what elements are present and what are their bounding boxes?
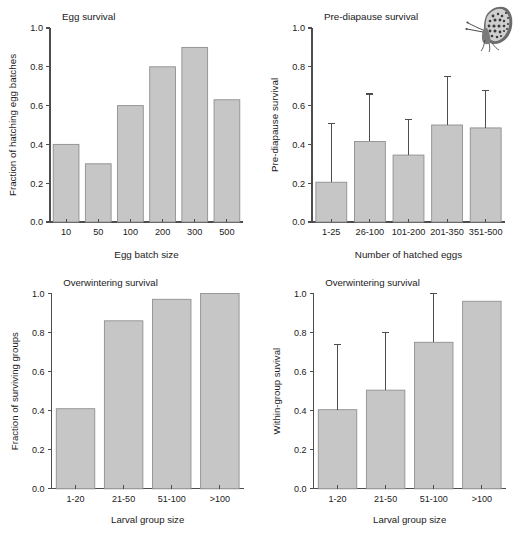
x-tick-label: 51-100 xyxy=(420,494,448,504)
bar xyxy=(201,293,239,488)
bar xyxy=(104,321,142,489)
y-axis-title: Fraction of hatching egg batches xyxy=(7,54,18,196)
multi-panel-figure: 0.00.20.40.60.81.01050100200300500Egg su… xyxy=(0,0,524,538)
y-tick-label: 0.6 xyxy=(30,101,43,111)
panel-overwintering-survival-within-group: 0.00.20.40.60.81.01-2021-5051-100>100Ove… xyxy=(262,264,524,533)
x-axis-title: Number of hatched eggs xyxy=(355,249,462,260)
bar xyxy=(214,100,240,222)
bar xyxy=(153,299,191,489)
y-axis-title: Within-group suvival xyxy=(271,348,282,435)
y-tick-label: 0.8 xyxy=(32,328,45,338)
x-tick-label: 50 xyxy=(93,227,103,237)
y-tick-label: 0.2 xyxy=(294,445,307,455)
y-tick-label: 0.0 xyxy=(292,217,305,227)
panel-title: Overwintering survival xyxy=(325,277,420,288)
bar xyxy=(415,342,453,489)
y-tick-label: 0.0 xyxy=(30,217,43,227)
bar xyxy=(354,141,385,222)
plot-area-pre-diapause-survival: 0.00.20.40.60.81.01-2526-100101-200201-3… xyxy=(262,0,524,269)
y-tick-label: 0.8 xyxy=(292,62,305,72)
x-tick-label: 51-100 xyxy=(158,494,186,504)
x-tick-label: 1-25 xyxy=(322,227,340,237)
x-tick-label: 1-20 xyxy=(329,494,347,504)
panel-pre-diapause-survival: 0.00.20.40.60.81.01-2526-100101-200201-3… xyxy=(262,0,524,269)
x-tick-label: 201-350 xyxy=(430,227,464,237)
panel-title: Pre-diapause survival xyxy=(324,11,418,22)
bar xyxy=(366,390,404,489)
y-tick-label: 0.0 xyxy=(32,484,45,494)
bar xyxy=(85,164,111,222)
y-axis-title: Pre-diapause survival xyxy=(269,78,280,172)
x-axis-title: Larval group size xyxy=(111,514,184,525)
y-tick-label: 0.4 xyxy=(32,406,45,416)
panel-title: Overwintering survival xyxy=(63,277,158,288)
x-tick-label: 300 xyxy=(187,227,202,237)
x-tick-label: 26-100 xyxy=(356,227,385,237)
bar xyxy=(463,301,501,489)
x-axis-title: Egg batch size xyxy=(114,249,179,260)
y-tick-label: 1.0 xyxy=(30,23,43,33)
plot-area-overwintering-groups: 0.00.20.40.60.81.01-2021-5051-100>100Ove… xyxy=(0,264,262,533)
panel-title: Egg survival xyxy=(62,11,115,22)
y-tick-label: 1.0 xyxy=(32,289,45,299)
bar xyxy=(393,155,424,222)
x-tick-label: 1-20 xyxy=(67,494,85,504)
chart-pre-diapause-survival: 0.00.20.40.60.81.01-2526-100101-200201-3… xyxy=(262,0,524,269)
x-tick-label: 100 xyxy=(123,227,138,237)
y-tick-label: 0.0 xyxy=(294,484,307,494)
y-tick-label: 0.2 xyxy=(292,179,305,189)
y-tick-label: 0.8 xyxy=(294,328,307,338)
bar xyxy=(150,67,176,222)
x-tick-label: 10 xyxy=(61,227,71,237)
x-tick-label: 200 xyxy=(155,227,170,237)
bar xyxy=(53,144,79,222)
y-tick-label: 0.6 xyxy=(292,101,305,111)
plot-area-overwintering-within-group: 0.00.20.40.60.81.01-2021-5051-100>100Ove… xyxy=(262,264,524,533)
y-axis-title: Fraction of surviving groups xyxy=(9,332,20,450)
x-tick-label: >100 xyxy=(472,494,492,504)
panel-egg-survival: 0.00.20.40.60.81.01050100200300500Egg su… xyxy=(0,0,262,269)
x-tick-label: 21-50 xyxy=(374,494,397,504)
bar xyxy=(470,128,501,222)
x-tick-label: >100 xyxy=(210,494,230,504)
y-tick-label: 0.8 xyxy=(30,62,43,72)
x-tick-label: 101-200 xyxy=(392,227,426,237)
bar xyxy=(118,106,144,222)
chart-overwintering-survival-within-group: 0.00.20.40.60.81.01-2021-5051-100>100Ove… xyxy=(262,264,524,533)
y-tick-label: 0.2 xyxy=(32,445,45,455)
x-tick-label: 21-50 xyxy=(112,494,135,504)
y-tick-label: 0.2 xyxy=(30,179,43,189)
chart-overwintering-survival-groups: 0.00.20.40.60.81.01-2021-5051-100>100Ove… xyxy=(0,264,262,533)
x-tick-label: 351-500 xyxy=(469,227,503,237)
chart-egg-survival: 0.00.20.40.60.81.01050100200300500Egg su… xyxy=(0,0,262,269)
bar xyxy=(316,182,347,222)
x-tick-label: 500 xyxy=(219,227,234,237)
y-tick-label: 1.0 xyxy=(294,289,307,299)
plot-area-egg-survival: 0.00.20.40.60.81.01050100200300500Egg su… xyxy=(0,0,262,269)
bar xyxy=(56,409,94,489)
y-tick-label: 0.6 xyxy=(32,367,45,377)
panel-overwintering-survival-groups: 0.00.20.40.60.81.01-2021-5051-100>100Ove… xyxy=(0,264,262,533)
y-tick-label: 0.6 xyxy=(294,367,307,377)
bar xyxy=(432,125,463,222)
bar xyxy=(182,47,208,222)
x-axis-title: Larval group size xyxy=(373,514,446,525)
y-tick-label: 1.0 xyxy=(292,23,305,33)
bar xyxy=(318,410,356,489)
y-tick-label: 0.4 xyxy=(294,406,307,416)
y-tick-label: 0.4 xyxy=(30,140,43,150)
y-tick-label: 0.4 xyxy=(292,140,305,150)
